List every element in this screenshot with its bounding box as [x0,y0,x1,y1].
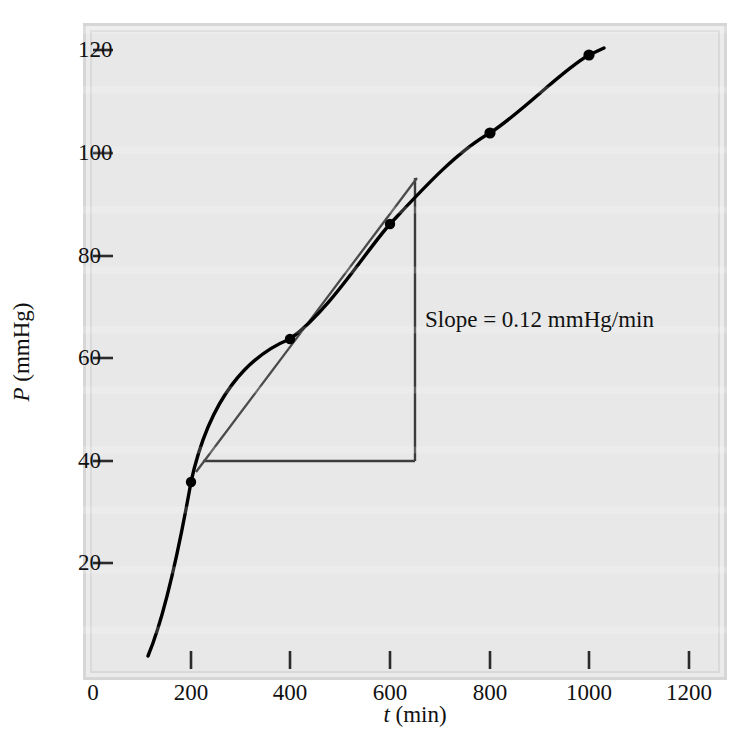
data-point-800 [484,127,495,138]
x-axis-title: t (min) [383,702,446,728]
data-point-markers [186,49,595,487]
x-tick-label-200: 200 [174,680,209,706]
data-curve [148,48,604,656]
y-tick-label-20: 20 [78,550,101,576]
y-axis-title-variable: P [9,387,34,401]
data-point-200 [186,477,196,487]
y-axis-title: P (mmHg) [9,302,35,401]
x-axis-title-units: (min) [396,702,447,727]
x-tick-label-1000: 1000 [566,680,612,706]
x-tick-label-800: 800 [473,680,508,706]
slope-annotation-label: Slope = 0.12 mmHg/min [425,307,654,333]
y-tick-label-60: 60 [78,345,101,371]
y-tick-label-40: 40 [78,448,101,474]
y-tick-label-120: 120 [78,37,113,63]
plot-svg [0,0,743,744]
data-point-400 [285,334,295,344]
x-tick-label-0: 0 [87,680,99,706]
y-tick-label-100: 100 [78,140,113,166]
figure-container: 120 100 80 60 40 20 0 200 400 600 800 10… [0,0,743,744]
x-tick-label-400: 400 [273,680,308,706]
y-tick-label-80: 80 [78,243,101,269]
x-tick-label-1200: 1200 [666,680,712,706]
data-point-1000 [583,49,594,60]
x-axis-ticks [191,651,689,669]
data-point-600 [385,219,395,229]
y-axis-ticks [93,50,113,563]
y-axis-title-units: (mmHg) [9,302,34,381]
